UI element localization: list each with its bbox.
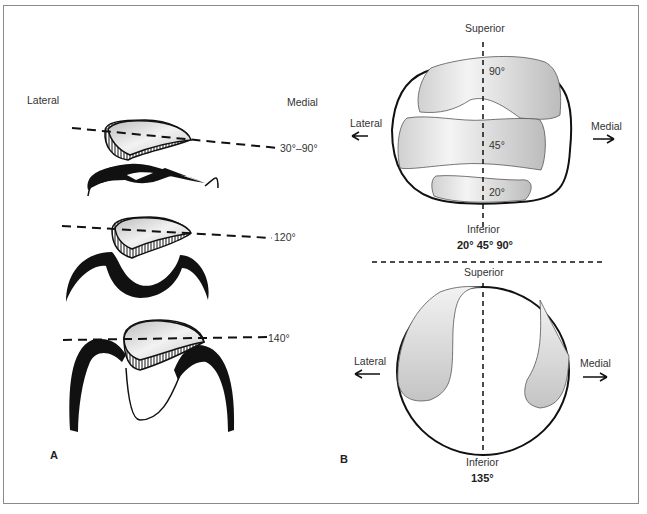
bottom-caption: 135° <box>471 472 494 484</box>
top-medial-label: Medial <box>591 120 622 132</box>
top-inferior-label: Inferior <box>467 223 500 235</box>
bottom-medial-label: Medial <box>580 357 611 369</box>
zone-label-45: 45° <box>489 139 505 151</box>
articular-map-top <box>352 42 614 228</box>
top-lateral-label: Lateral <box>350 117 382 129</box>
figure-artwork <box>0 0 647 514</box>
top-caption: 20° 45° 90° <box>457 239 513 251</box>
zone-label-90: 90° <box>489 65 505 77</box>
bottom-superior-label: Superior <box>464 266 504 278</box>
top-superior-label: Superior <box>465 22 505 34</box>
patella-140 <box>63 320 268 432</box>
angle-label-30-90: 30°–90° <box>280 142 318 154</box>
panel-a-medial-label: Medial <box>287 96 318 108</box>
panel-b-letter: B <box>340 453 348 465</box>
angle-label-140: 140° <box>268 332 290 344</box>
zone-label-20: 20° <box>489 186 505 198</box>
patella-30-90 <box>72 120 278 196</box>
angle-label-120: 120° <box>274 231 296 243</box>
bottom-lateral-label: Lateral <box>354 355 386 367</box>
bottom-inferior-label: Inferior <box>466 456 499 468</box>
patella-120 <box>62 217 272 302</box>
panel-a-lateral-label: Lateral <box>27 94 59 106</box>
panel-a-letter: A <box>50 449 58 461</box>
articular-map-bottom <box>355 283 607 456</box>
